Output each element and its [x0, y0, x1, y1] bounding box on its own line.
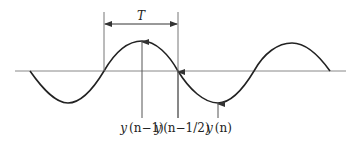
sine-wave-diagram: T y(n−1) y(n−1/2) y(n) — [0, 0, 356, 145]
sine-curve — [30, 41, 330, 103]
period-label: T — [137, 9, 146, 23]
label-y-n: y(n) — [205, 121, 232, 135]
